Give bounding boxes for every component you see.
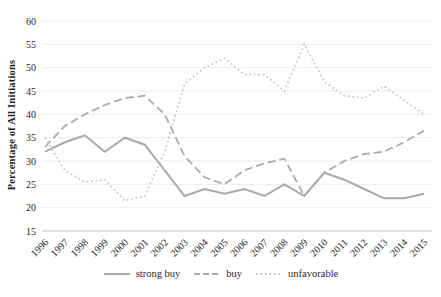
- x-tick-label: 2000: [108, 237, 130, 259]
- x-tick-label: 2009: [288, 237, 310, 259]
- x-tick-label: 2008: [268, 237, 290, 259]
- y-tick-label: 15: [26, 226, 36, 237]
- y-tick-label: 40: [26, 109, 36, 120]
- legend-item-strong-buy: strong buy: [103, 268, 181, 279]
- plot-area: 1520253035404550556019961997199819992000…: [0, 0, 441, 297]
- y-tick-label: 60: [26, 16, 36, 27]
- series-line-strong-buy: [45, 135, 424, 198]
- series-line-buy: [45, 96, 424, 196]
- legend-label: buy: [226, 268, 242, 279]
- initiations-chart: Percentage of All Initiations 1520253035…: [0, 0, 441, 297]
- y-tick-label: 30: [26, 156, 36, 167]
- dashed-line-swatch: [193, 270, 221, 278]
- x-tick-label: 2015: [407, 237, 429, 259]
- y-tick-label: 35: [26, 132, 36, 143]
- y-tick-label: 55: [26, 39, 36, 50]
- y-tick-label: 20: [26, 202, 36, 213]
- x-tick-label: 2013: [368, 237, 390, 259]
- y-axis-title: Percentage of All Initiations: [6, 60, 17, 191]
- x-tick-label: 1997: [48, 237, 70, 259]
- x-tick-label: 2002: [148, 237, 170, 259]
- y-tick-label: 25: [26, 179, 36, 190]
- y-tick-label: 45: [26, 86, 36, 97]
- x-tick-label: 2005: [208, 237, 230, 259]
- x-tick-label: 2011: [328, 237, 350, 259]
- legend-item-unfavorable: unfavorable: [255, 268, 338, 279]
- solid-line-swatch: [103, 270, 131, 278]
- x-tick-label: 1996: [28, 237, 50, 259]
- x-tick-label: 2010: [308, 237, 330, 259]
- x-tick-label: 2006: [228, 237, 250, 259]
- x-tick-label: 2007: [248, 237, 270, 259]
- x-tick-label: 1999: [88, 237, 110, 259]
- x-tick-label: 2004: [188, 237, 210, 259]
- x-tick-label: 2003: [168, 237, 190, 259]
- legend: strong buybuyunfavorable: [0, 268, 441, 279]
- x-tick-label: 2014: [388, 237, 410, 259]
- x-tick-label: 2012: [348, 237, 370, 259]
- x-tick-label: 1998: [68, 237, 90, 259]
- legend-label: strong buy: [136, 268, 181, 279]
- legend-label: unfavorable: [288, 268, 338, 279]
- x-tick-label: 2001: [128, 237, 150, 259]
- legend-item-buy: buy: [193, 268, 242, 279]
- y-tick-label: 50: [26, 62, 36, 73]
- dotted-line-swatch: [255, 270, 283, 278]
